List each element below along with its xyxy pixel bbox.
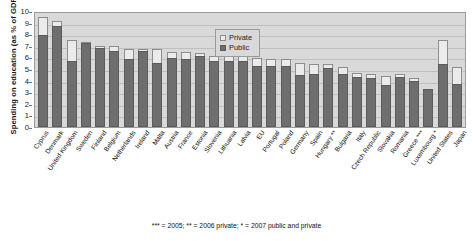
bar-slot[interactable] (164, 13, 178, 127)
bar-segment-public[interactable] (67, 61, 77, 127)
x-tick-label: EU (255, 129, 266, 141)
bar-stack[interactable] (323, 13, 333, 127)
bar-segment-public[interactable] (95, 48, 105, 127)
bar-segment-public[interactable] (181, 59, 191, 127)
bar-stack[interactable] (167, 13, 177, 127)
bar-stack[interactable] (81, 13, 91, 127)
bar-stack[interactable] (38, 13, 48, 127)
bar-segment-public[interactable] (238, 61, 248, 127)
bar-slot[interactable] (193, 13, 207, 127)
bar-stack[interactable] (109, 13, 119, 127)
bar-slot[interactable] (65, 13, 79, 127)
bar-stack[interactable] (309, 13, 319, 127)
bar-stack[interactable] (152, 13, 162, 127)
bar-slot[interactable] (136, 13, 150, 127)
bar-segment-private[interactable] (381, 76, 391, 85)
bar-segment-public[interactable] (438, 64, 448, 127)
bar-segment-private[interactable] (295, 63, 305, 75)
bar-stack[interactable] (352, 13, 362, 127)
bar-stack[interactable] (409, 13, 419, 127)
x-tick-label: Italy (354, 129, 367, 143)
bar-segment-private[interactable] (309, 64, 319, 74)
bar-stack[interactable] (366, 13, 376, 127)
bar-segment-public[interactable] (109, 51, 119, 127)
bar-segment-public[interactable] (352, 77, 362, 127)
bar-stack[interactable] (452, 13, 462, 127)
bar-slot[interactable] (336, 13, 350, 127)
bar-stack[interactable] (381, 13, 391, 127)
bar-slot[interactable] (407, 13, 421, 127)
bar-slot[interactable] (378, 13, 392, 127)
bar-stack[interactable] (195, 13, 205, 127)
bar-slot[interactable] (421, 13, 435, 127)
bar-slot[interactable] (122, 13, 136, 127)
bar-segment-public[interactable] (195, 56, 205, 127)
bar-segment-public[interactable] (38, 35, 48, 127)
bar-segment-public[interactable] (124, 59, 134, 127)
bar-stack[interactable] (423, 13, 433, 127)
bar-segment-private[interactable] (67, 40, 77, 61)
bar-segment-private[interactable] (252, 58, 262, 66)
bar-segment-public[interactable] (423, 89, 433, 127)
bar-segment-public[interactable] (224, 61, 234, 127)
bar-slot[interactable] (321, 13, 335, 127)
bar-stack[interactable] (95, 13, 105, 127)
bar-segment-public[interactable] (52, 26, 62, 127)
footnote: *** = 2005; ** = 2006 private; * = 2007 … (0, 222, 473, 229)
bar-slot[interactable] (264, 13, 278, 127)
bar-slot[interactable] (450, 13, 464, 127)
bar-slot[interactable] (279, 13, 293, 127)
bar-segment-public[interactable] (167, 58, 177, 127)
bar-segment-private[interactable] (438, 40, 448, 64)
bar-segment-private[interactable] (452, 67, 462, 84)
bar-segment-public[interactable] (138, 51, 148, 127)
bar-stack[interactable] (181, 13, 191, 127)
bar-stack[interactable] (67, 13, 77, 127)
bar-stack[interactable] (124, 13, 134, 127)
bar-segment-private[interactable] (124, 49, 134, 58)
bar-slot[interactable] (79, 13, 93, 127)
bar-segment-public[interactable] (252, 66, 262, 127)
bar-segment-public[interactable] (209, 61, 219, 127)
x-tick-label: Latvia (236, 129, 252, 147)
bar-slot[interactable] (364, 13, 378, 127)
bar-segment-private[interactable] (338, 67, 348, 74)
bar-slot[interactable] (179, 13, 193, 127)
bar-stack[interactable] (438, 13, 448, 127)
bar-segment-public[interactable] (381, 85, 391, 127)
bar-segment-public[interactable] (266, 66, 276, 127)
bar-stack[interactable] (281, 13, 291, 127)
bar-segment-private[interactable] (266, 59, 276, 66)
bar-segment-private[interactable] (152, 49, 162, 63)
bar-slot[interactable] (107, 13, 121, 127)
bar-segment-public[interactable] (295, 75, 305, 127)
bar-segment-public[interactable] (366, 78, 376, 127)
bar-segment-public[interactable] (395, 77, 405, 127)
bar-stack[interactable] (338, 13, 348, 127)
bar-segment-public[interactable] (338, 74, 348, 127)
legend-label-public: Public (229, 43, 249, 53)
bar-slot[interactable] (435, 13, 449, 127)
bar-stack[interactable] (295, 13, 305, 127)
bar-segment-public[interactable] (152, 63, 162, 127)
bar-segment-public[interactable] (323, 68, 333, 127)
bar-segment-private[interactable] (281, 59, 291, 67)
bar-segment-public[interactable] (81, 43, 91, 127)
bar-segment-public[interactable] (409, 81, 419, 127)
bar-stack[interactable] (138, 13, 148, 127)
bar-segment-public[interactable] (281, 66, 291, 127)
bar-slot[interactable] (150, 13, 164, 127)
bar-slot[interactable] (393, 13, 407, 127)
bar-stack[interactable] (266, 13, 276, 127)
bar-segment-private[interactable] (38, 17, 48, 35)
bar-slot[interactable] (36, 13, 50, 127)
bar-segment-public[interactable] (309, 74, 319, 127)
bar-slot[interactable] (307, 13, 321, 127)
bar-stack[interactable] (52, 13, 62, 127)
bar-slot[interactable] (93, 13, 107, 127)
bar-stack[interactable] (395, 13, 405, 127)
bar-slot[interactable] (293, 13, 307, 127)
bar-slot[interactable] (50, 13, 64, 127)
bar-segment-public[interactable] (452, 84, 462, 128)
bar-slot[interactable] (350, 13, 364, 127)
